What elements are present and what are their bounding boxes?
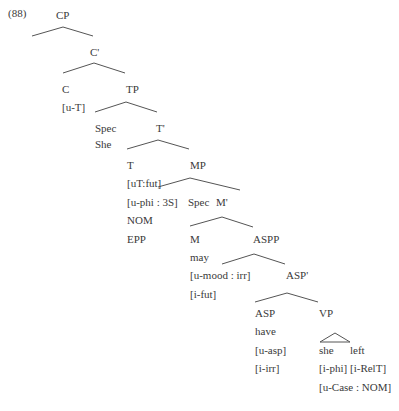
m-feature-2: [i-fut] bbox=[190, 288, 216, 301]
vp-feature-1: [i-phi] bbox=[319, 362, 347, 375]
node-m: M bbox=[190, 233, 200, 246]
node-asp: ASP bbox=[255, 307, 275, 320]
node-vp: VP bbox=[319, 307, 333, 320]
node-spec-tp: Spec bbox=[95, 122, 116, 135]
vp-feature-3: [u-Case : NOM] bbox=[319, 381, 391, 394]
node-mp: MP bbox=[190, 159, 206, 172]
node-tp: TP bbox=[126, 83, 139, 96]
vp-word-she: she bbox=[319, 344, 334, 357]
asp-feature-2: [i-irr] bbox=[255, 362, 279, 375]
asp-feature-1: [u-asp] bbox=[255, 344, 286, 357]
node-cp: CP bbox=[56, 9, 69, 22]
node-asp-bar: ASP' bbox=[286, 269, 308, 282]
t-feature-4: EPP bbox=[127, 233, 146, 246]
example-number: (88) bbox=[8, 7, 26, 20]
node-m-bar: M' bbox=[216, 196, 228, 209]
node-aspp: ASPP bbox=[253, 233, 279, 246]
node-c: C bbox=[62, 83, 69, 96]
t-feature-3: NOM bbox=[127, 214, 153, 227]
asp-word: have bbox=[255, 325, 276, 338]
c-feature: [u-T] bbox=[62, 101, 85, 114]
node-t-bar: T' bbox=[156, 122, 165, 135]
vp-word-left: left bbox=[350, 344, 365, 357]
node-t: T bbox=[127, 159, 134, 172]
m-word: may bbox=[190, 251, 209, 264]
t-feature-2: [u-phi : 3S] bbox=[127, 196, 178, 209]
node-spec-mp: Spec bbox=[188, 196, 209, 209]
node-c-bar: C' bbox=[90, 46, 99, 59]
m-feature-1: [u-mood : irr] bbox=[190, 269, 250, 282]
spec-tp-word: She bbox=[95, 138, 112, 151]
t-feature-1: [uT:fut] bbox=[127, 177, 161, 190]
vp-feature-2: [i-RelT] bbox=[350, 362, 386, 375]
